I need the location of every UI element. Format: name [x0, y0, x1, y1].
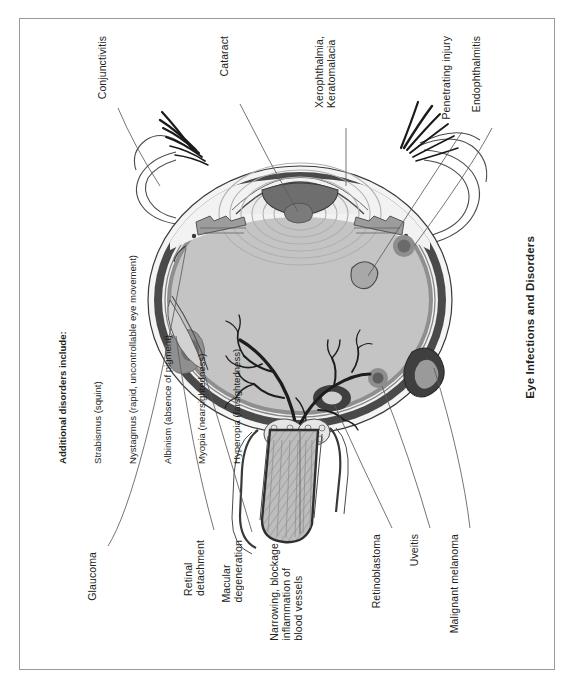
diagram-page: Conjunctivitis Cataract Xerophthalmia, K…	[0, 0, 576, 685]
label-narrowing-blockage-vessels: Narrowing, blockage, inflammation of blo…	[268, 540, 304, 641]
additional-disorders-block: Additional disorders include: Strabismus…	[34, 255, 266, 464]
additional-disorders-item: Nystagmus (rapid, uncontrollable eye mov…	[127, 255, 139, 464]
label-macular-degeneration: Macular degeneration	[220, 540, 244, 603]
label-xerophthalmia-keratomalacia: Xerophthalmia, Keratomalacia	[313, 36, 337, 108]
additional-disorders-item: Hyperopia (farsightedness)	[231, 255, 243, 464]
label-penetrating-injury: Penetrating injury	[440, 36, 452, 120]
additional-disorders-item: Strabismus (squint)	[92, 255, 104, 464]
label-retinal-detachment: Retinal detachment	[182, 540, 206, 596]
page-title: Eye Infections and Disorders	[524, 236, 536, 399]
additional-disorders-heading: Additional disorders include:	[57, 255, 69, 464]
label-retinoblastoma: Retinoblastoma	[370, 534, 382, 608]
label-uveitis: Uveitis	[408, 534, 420, 566]
label-malignant-melanoma: Malignant melanoma	[448, 534, 460, 633]
additional-disorders-item: Albinism (absence of pigment)	[162, 255, 174, 464]
additional-disorders-item: Myopia (nearsightedness)	[196, 255, 208, 464]
label-endophthalmitis: Endophthalmitis	[470, 36, 482, 112]
label-glaucoma: Glaucoma	[86, 552, 98, 601]
label-conjunctivitis: Conjunctivitis	[96, 36, 108, 99]
label-cataract: Cataract	[218, 36, 230, 76]
